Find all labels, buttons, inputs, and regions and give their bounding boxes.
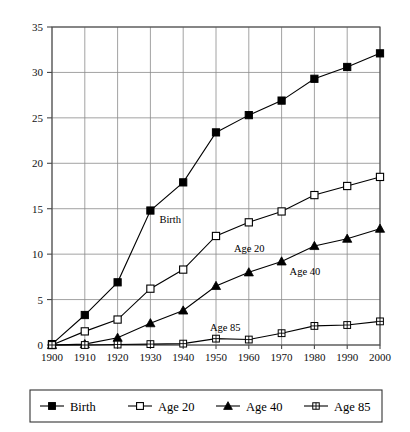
x-tick-label: 1990 [336,351,359,363]
marker-shape [311,75,318,82]
marker-crossed-square [147,341,154,348]
marker-shape [278,208,285,215]
marker-shape [137,403,144,410]
y-tick-label: 15 [32,203,44,215]
marker-shape [245,112,252,119]
marker-open-square [245,219,252,226]
x-tick-label: 1950 [205,351,228,363]
marker-filled-square [49,403,56,410]
marker-shape [376,173,383,180]
marker-filled-square [212,129,219,136]
chart-legend[interactable]: BirthAge 20Age 40Age 85 [30,390,382,422]
annotation-age-20: Age 20 [234,243,265,254]
marker-filled-square [245,112,252,119]
annotation-birth: Birth [159,214,181,225]
marker-crossed-square [377,318,384,325]
marker-shape [81,328,88,335]
legend-label: Age 20 [158,400,194,414]
y-tick-label: 20 [32,157,44,169]
y-tick-label: 35 [32,21,44,33]
marker-crossed-square [180,340,187,347]
marker-open-square [137,403,144,410]
legend-label: Birth [70,400,96,414]
marker-filled-square [147,207,154,214]
x-tick-label: 2000 [369,351,392,363]
marker-shape [81,311,88,318]
y-tick-label: 25 [32,112,44,124]
marker-shape [49,403,56,410]
marker-crossed-square [311,323,318,330]
marker-crossed-square [344,322,351,329]
marker-open-square [278,208,285,215]
marker-filled-square [376,50,383,57]
marker-shape [180,179,187,186]
legend-label: Age 40 [246,400,282,414]
marker-filled-square [81,311,88,318]
legend-label: Age 85 [334,400,370,414]
marker-filled-square [311,75,318,82]
marker-crossed-square [213,335,220,342]
marker-open-square [81,328,88,335]
annotation-age-40: Age 40 [290,266,321,277]
marker-shape [114,316,121,323]
marker-shape [147,207,154,214]
x-tick-label: 1910 [74,351,97,363]
x-tick-label: 1970 [271,351,294,363]
marker-crossed-square [313,403,319,409]
marker-crossed-square [245,336,252,343]
x-tick-label: 1980 [303,351,326,363]
marker-shape [245,219,252,226]
marker-open-square [147,285,154,292]
marker-shape [114,279,121,286]
marker-filled-square [344,63,351,70]
x-tick-label: 1930 [139,351,162,363]
marker-shape [180,266,187,273]
marker-open-square [180,266,187,273]
marker-shape [212,232,219,239]
x-tick-label: 1900 [41,351,64,363]
x-tick-label: 1940 [172,351,195,363]
marker-shape [278,97,285,104]
marker-open-square [344,182,351,189]
y-tick-label: 30 [32,66,44,78]
marker-open-square [311,191,318,198]
marker-shape [311,191,318,198]
marker-shape [344,182,351,189]
marker-shape [344,63,351,70]
marker-crossed-square [81,342,88,349]
marker-shape [376,50,383,57]
marker-filled-square [278,97,285,104]
marker-open-square [376,173,383,180]
x-tick-label: 1960 [238,351,261,363]
marker-filled-square [180,179,187,186]
x-tick-label: 1920 [107,351,130,363]
marker-crossed-square [49,342,56,349]
marker-crossed-square [114,341,121,348]
y-tick-label: 0 [38,339,44,351]
annotation-age-85: Age 85 [210,322,241,333]
marker-open-square [212,232,219,239]
line-chart: 05101520253035 1900191019201930194019501… [0,0,410,432]
marker-shape [147,285,154,292]
marker-crossed-square [278,330,285,337]
y-tick-label: 10 [32,248,44,260]
marker-filled-square [114,279,121,286]
y-tick-label: 5 [38,294,44,306]
marker-shape [212,129,219,136]
marker-open-square [114,316,121,323]
chart-canvas: 05101520253035 1900191019201930194019501… [0,0,410,432]
